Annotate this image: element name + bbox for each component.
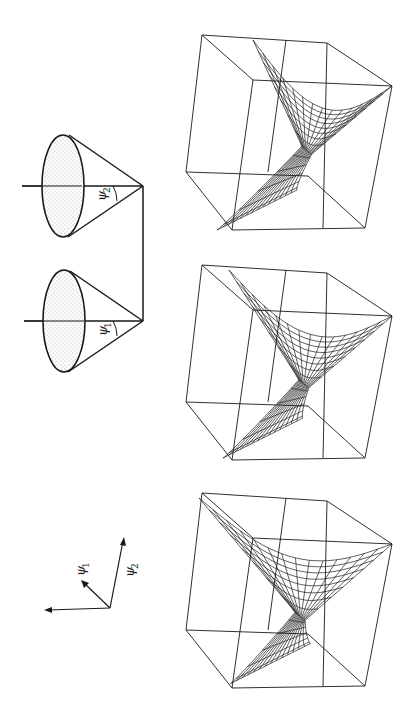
cube-edge xyxy=(186,172,232,230)
mesh-line xyxy=(252,324,303,444)
cube-edge xyxy=(365,544,392,686)
cube-edge xyxy=(308,634,365,686)
angle-arc xyxy=(113,186,117,201)
cube-edge xyxy=(186,35,202,172)
cube-edge xyxy=(186,265,202,402)
cube-edge xyxy=(365,316,392,458)
cube-edge xyxy=(327,501,392,544)
cube-edge xyxy=(202,493,327,501)
surface-panels xyxy=(186,35,392,688)
cube-edge xyxy=(253,538,392,544)
axis-label-psi1-sub: 1 xyxy=(81,562,91,568)
angle-arc xyxy=(113,321,117,336)
mesh-line xyxy=(280,335,345,429)
cube-edge xyxy=(202,35,253,80)
cube-edge xyxy=(327,43,392,86)
axis-horizontal xyxy=(48,608,110,610)
cube-edge xyxy=(327,273,392,316)
cube-edge xyxy=(308,406,365,458)
cube-edge xyxy=(308,176,365,228)
mesh-line xyxy=(217,40,302,230)
surface-plot-1 xyxy=(186,35,392,230)
cube-edge xyxy=(202,265,327,273)
cube-edge xyxy=(232,228,365,230)
cube-edge xyxy=(232,458,365,460)
arrowhead-icon xyxy=(44,607,52,613)
mesh-line xyxy=(291,93,382,193)
cube-edge xyxy=(365,86,392,228)
cube-edge xyxy=(186,402,232,460)
cube-edge xyxy=(186,630,232,688)
cube-edge xyxy=(323,273,327,458)
mesh-line xyxy=(228,66,303,224)
axis-diagram: ψ 1 ψ 2 xyxy=(44,537,140,613)
axis-psi1 xyxy=(84,583,110,608)
surface-plot-3 xyxy=(186,493,392,688)
angle-label-subscript: 1 xyxy=(103,322,113,328)
mesh-line xyxy=(297,86,392,190)
arrowhead-icon xyxy=(120,537,126,546)
cube-edge xyxy=(232,686,365,688)
cube-edge xyxy=(323,501,327,686)
cube-edge xyxy=(232,80,253,230)
mesh-line xyxy=(223,53,303,227)
cone-psi2: ψ 2 xyxy=(22,135,143,237)
mesh-line xyxy=(246,316,302,447)
cube-edge xyxy=(253,310,392,316)
cube-edge xyxy=(268,498,286,630)
angle-label-subscript: 2 xyxy=(102,187,112,193)
mesh-line xyxy=(199,498,295,684)
mesh-line xyxy=(305,544,392,644)
figure-canvas: ψ 2 ψ 1 ψ 1 ψ 2 xyxy=(0,0,414,728)
cube-edge xyxy=(186,493,202,630)
surface-plot-2 xyxy=(186,265,392,460)
mesh-line xyxy=(264,63,375,119)
cone-psi1: ψ 1 xyxy=(24,270,143,372)
mesh-line xyxy=(263,110,333,207)
mesh-line xyxy=(220,522,374,573)
cube-edge xyxy=(202,35,327,43)
axis-label-psi2-sub: 2 xyxy=(130,563,140,569)
cube-edge xyxy=(232,310,253,460)
mesh-line xyxy=(286,332,357,427)
